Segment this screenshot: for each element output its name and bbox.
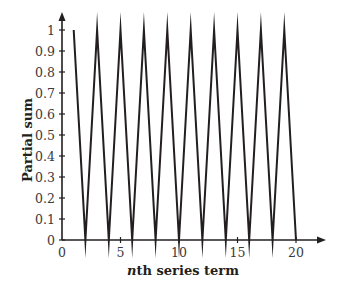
y-axis-arrow-icon xyxy=(59,12,66,21)
x-tick-label: 20 xyxy=(288,245,304,260)
x-axis-arrow-icon xyxy=(317,237,326,244)
partial-sum-chart: 00.10.20.30.40.50.60.70.80.91 05101520 P… xyxy=(0,0,345,287)
y-tick-label: 0.8 xyxy=(35,65,55,80)
y-tick-label: 0 xyxy=(47,233,55,248)
y-tick-label: 0.3 xyxy=(35,170,55,185)
partial-sum-line xyxy=(74,30,296,240)
y-tick-label: 0.4 xyxy=(35,149,55,164)
y-tick-label: 0.9 xyxy=(35,44,55,59)
y-axis-title: Partial sum xyxy=(20,98,35,182)
y-tick-label: 0.7 xyxy=(35,86,55,101)
x-tick-label: 0 xyxy=(58,245,66,260)
y-tick-label: 0.1 xyxy=(35,212,55,227)
x-axis-title-rest: th series term xyxy=(137,263,240,278)
x-axis-title-italic-n: n xyxy=(127,263,136,278)
y-tick-label: 0.5 xyxy=(35,128,55,143)
x-tick-label: 5 xyxy=(117,245,125,260)
y-tick-label: 1 xyxy=(47,23,55,38)
y-tick-label: 0.6 xyxy=(35,107,55,122)
y-tick-label: 0.2 xyxy=(35,191,55,206)
x-tick-label: 15 xyxy=(230,245,246,260)
y-axis-ticks: 00.10.20.30.40.50.60.70.80.91 xyxy=(35,23,65,248)
x-axis-title: nth series term xyxy=(127,263,239,278)
